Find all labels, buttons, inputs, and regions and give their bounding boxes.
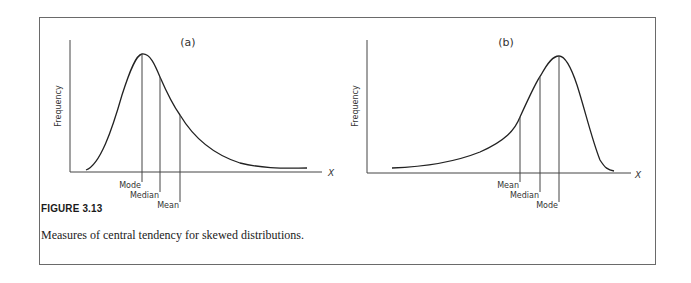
figure-caption: Measures of central tendency for skewed … xyxy=(41,228,304,243)
y-axis-label-a: Frequency xyxy=(54,85,63,127)
marker-label-mean-b: Mean xyxy=(497,181,519,190)
distribution-curve-a xyxy=(86,54,307,170)
marker-label-median-b: Median xyxy=(510,191,539,200)
panel-label-a: (a) xyxy=(180,36,195,49)
marker-label-mode-b: Mode xyxy=(536,201,558,210)
x-axis-label-a: X xyxy=(327,168,335,178)
panel-a xyxy=(70,40,322,202)
panel-label-b: (b) xyxy=(498,36,514,49)
x-axis-label-b: X xyxy=(634,170,642,180)
y-axis-label-b: Frequency xyxy=(351,85,360,127)
marker-label-mean-a: Mean xyxy=(157,201,179,210)
distribution-curve-b xyxy=(392,56,614,171)
figure-title: FIGURE 3.13 xyxy=(41,202,102,214)
marker-label-median-a: Median xyxy=(130,191,159,200)
panel-b xyxy=(367,40,631,202)
marker-label-mode-a: Mode xyxy=(119,181,141,190)
